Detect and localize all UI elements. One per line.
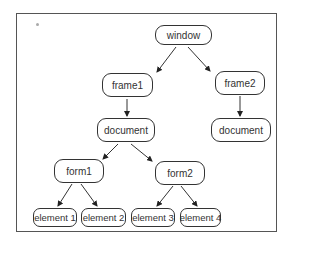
node-element-4: element 4 bbox=[180, 208, 221, 227]
node-document-right: document bbox=[211, 118, 271, 142]
node-frame1: frame1 bbox=[102, 73, 153, 97]
edge-form1-element2 bbox=[81, 184, 97, 206]
edge-window-frame2 bbox=[188, 47, 210, 71]
edge-form2-element3 bbox=[157, 186, 173, 206]
edge-form2-element4 bbox=[181, 186, 197, 206]
edge-window-frame1 bbox=[157, 47, 176, 72]
node-document-left: document bbox=[97, 118, 155, 142]
node-form2: form2 bbox=[155, 161, 205, 185]
node-element-2: element 2 bbox=[81, 208, 126, 227]
node-element-3: element 3 bbox=[131, 208, 175, 227]
node-element-1: element 1 bbox=[33, 208, 77, 227]
edge-form1-element1 bbox=[58, 184, 72, 206]
node-frame2: frame2 bbox=[215, 71, 265, 95]
node-window: window bbox=[155, 25, 212, 45]
edge-document-form2 bbox=[131, 144, 152, 161]
node-form1: form1 bbox=[54, 159, 104, 183]
edge-document-form1 bbox=[103, 144, 118, 159]
